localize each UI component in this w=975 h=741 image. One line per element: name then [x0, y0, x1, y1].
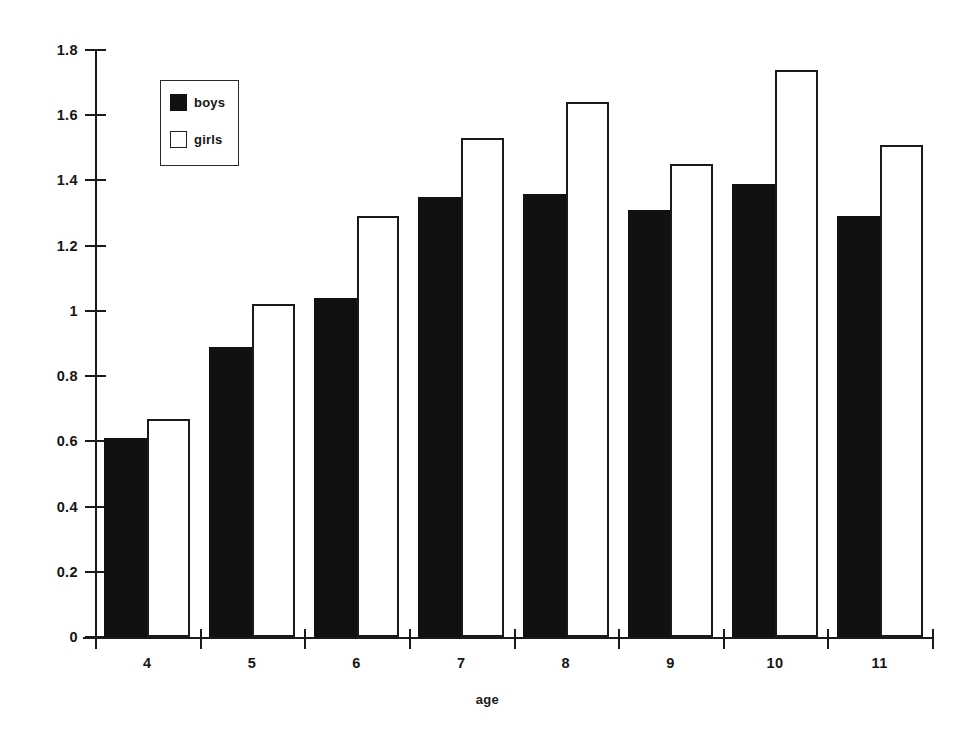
bar-girls-age-10: [775, 70, 818, 637]
legend-item-boys: boys: [170, 94, 225, 111]
legend-swatch-girls: [170, 131, 187, 148]
x-tick-mark: [95, 629, 97, 649]
x-tick-label: 6: [327, 655, 387, 671]
bar-boys-age-8: [523, 194, 566, 638]
x-tick-label: 10: [745, 655, 805, 671]
x-tick-label: 5: [222, 655, 282, 671]
x-axis-title: age: [0, 692, 975, 707]
bar-girls-age-8: [566, 102, 609, 637]
x-tick-mark: [827, 629, 829, 649]
bar-boys-age-7: [418, 197, 461, 637]
bar-boys-age-10: [732, 184, 775, 637]
x-tick-label: 4: [117, 655, 177, 671]
legend-label-boys: boys: [194, 95, 225, 110]
bar-girls-age-5: [252, 304, 295, 637]
chart-figure: 00.20.40.60.811.21.41.61.8 4567891011 ag…: [0, 0, 975, 741]
x-tick-label: 11: [850, 655, 910, 671]
bar-boys-age-9: [628, 210, 671, 637]
y-tick-label: 0.2: [8, 564, 78, 580]
bar-boys-age-11: [837, 216, 880, 637]
legend-label-girls: girls: [194, 132, 222, 147]
x-tick-label: 7: [431, 655, 491, 671]
bar-girls-age-4: [147, 419, 190, 637]
y-tick-label: 1.4: [8, 172, 78, 188]
x-tick-label: 9: [640, 655, 700, 671]
y-tick-label: 1.6: [8, 107, 78, 123]
chart-legend: boys girls: [160, 80, 239, 166]
y-tick-label: 0: [8, 629, 78, 645]
x-tick-mark: [618, 629, 620, 649]
x-axis-line: [83, 637, 934, 639]
bar-boys-age-6: [314, 298, 357, 637]
x-tick-mark: [514, 629, 516, 649]
y-tick-label: 0.6: [8, 433, 78, 449]
x-tick-mark: [304, 629, 306, 649]
x-tick-mark: [723, 629, 725, 649]
y-tick-label: 1.2: [8, 238, 78, 254]
bar-girls-age-7: [461, 138, 504, 637]
legend-swatch-boys: [170, 94, 187, 111]
x-tick-mark: [409, 629, 411, 649]
bar-boys-age-4: [104, 438, 147, 637]
x-tick-label: 8: [536, 655, 596, 671]
bar-boys-age-5: [209, 347, 252, 637]
y-tick-label: 1.8: [8, 42, 78, 58]
bar-girls-age-6: [357, 216, 400, 637]
y-tick-label: 0.8: [8, 368, 78, 384]
y-tick-label: 1: [8, 303, 78, 319]
bar-girls-age-11: [880, 145, 923, 637]
y-tick-label: 0.4: [8, 499, 78, 515]
x-tick-mark: [200, 629, 202, 649]
legend-item-girls: girls: [170, 131, 222, 148]
x-tick-mark: [932, 629, 934, 649]
bar-girls-age-9: [670, 164, 713, 637]
